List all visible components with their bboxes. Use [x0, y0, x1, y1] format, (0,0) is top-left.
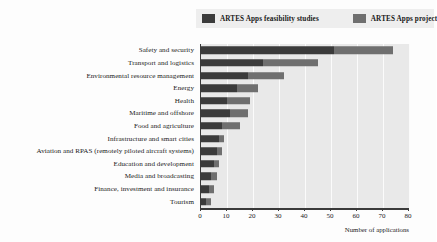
bar-segment-apps-project	[211, 173, 216, 181]
bar-segment-apps-project	[217, 147, 222, 155]
stacked-bar	[201, 122, 240, 130]
bar-segment-apps-project	[263, 59, 318, 67]
gridline	[409, 44, 410, 208]
category-label: Environmental resource management	[0, 69, 198, 82]
category-label: Transport and logistics	[0, 57, 198, 70]
legend-entry-feasibility-studies: ARTES Apps feasibility studies	[202, 9, 319, 28]
bar-segment-feasibility-studies	[201, 122, 222, 130]
bar-row	[201, 145, 409, 158]
legend-entry-apps-project: ARTES Apps project	[353, 9, 437, 28]
bar-segment-feasibility-studies	[201, 59, 263, 67]
legend-label-apps-project: ARTES Apps project	[371, 15, 437, 23]
bar-row	[201, 157, 409, 170]
bar-segment-apps-project	[219, 135, 224, 143]
x-tick-mark	[226, 208, 227, 211]
category-label: Education and development	[0, 157, 198, 170]
bar-row	[201, 183, 409, 196]
stacked-bar	[201, 110, 248, 118]
category-label: Energy	[0, 82, 198, 95]
stacked-bar	[201, 160, 219, 168]
bar-segment-feasibility-studies	[201, 47, 334, 55]
x-tick-label: 50	[327, 212, 334, 220]
bar-segment-feasibility-studies	[201, 160, 214, 168]
bar-segment-feasibility-studies	[201, 84, 237, 92]
legend-swatch-apps-project	[353, 14, 366, 23]
bar-row	[201, 69, 409, 82]
bar-segment-feasibility-studies	[201, 185, 209, 193]
bar-segment-feasibility-studies	[201, 72, 248, 80]
x-tick-mark	[304, 208, 305, 211]
bar-segment-apps-project	[209, 185, 214, 193]
bar-row	[201, 82, 409, 95]
category-label: Health	[0, 94, 198, 107]
bar-segment-apps-project	[214, 160, 219, 168]
bar-segment-apps-project	[222, 122, 240, 130]
category-label: Maritime and offshore	[0, 107, 198, 120]
bar-segment-apps-project	[206, 198, 211, 206]
stacked-bar	[201, 59, 318, 67]
category-label: Finance, investment and insurance	[0, 183, 198, 196]
category-label: Food and agriculture	[0, 120, 198, 133]
x-tick-label: 80	[405, 212, 412, 220]
bar-row	[201, 57, 409, 70]
x-tick-mark	[356, 208, 357, 211]
x-tick-label: 10	[223, 212, 230, 220]
category-label: Safety and security	[0, 44, 198, 57]
stacked-bar	[201, 97, 250, 105]
x-tick-mark	[252, 208, 253, 211]
stacked-bar	[201, 84, 258, 92]
x-tick-label: 0	[198, 212, 202, 220]
plot-area	[200, 44, 409, 208]
x-tick-mark	[278, 208, 279, 211]
stacked-bar	[201, 185, 214, 193]
x-tick-label: 20	[249, 212, 256, 220]
x-tick-mark	[382, 208, 383, 211]
legend-label-feasibility-studies: ARTES Apps feasibility studies	[220, 15, 319, 23]
bar-segment-feasibility-studies	[201, 147, 217, 155]
bar-segment-feasibility-studies	[201, 110, 230, 118]
x-axis-ticks: 01020304050607080	[200, 208, 408, 224]
bar-row	[201, 170, 409, 183]
stacked-bar	[201, 173, 217, 181]
category-label: Aviation and RPAS (remotely piloted airc…	[0, 145, 198, 158]
bar-row	[201, 132, 409, 145]
chart-legend: ARTES Apps feasibility studies ARTES App…	[196, 9, 434, 28]
bar-segment-feasibility-studies	[201, 135, 219, 143]
stacked-bar	[201, 47, 393, 55]
bar-segment-feasibility-studies	[201, 97, 227, 105]
bar-segment-apps-project	[230, 110, 248, 118]
bar-row	[201, 120, 409, 133]
bar-row	[201, 107, 409, 120]
bar-segment-feasibility-studies	[201, 173, 211, 181]
x-tick-label: 70	[379, 212, 386, 220]
x-tick-label: 60	[353, 212, 360, 220]
x-axis-title: Number of applications	[200, 226, 409, 233]
bar-segment-apps-project	[227, 97, 250, 105]
legend-swatch-feasibility-studies	[202, 14, 215, 23]
bar-segment-apps-project	[334, 47, 394, 55]
stacked-bar	[201, 72, 284, 80]
stacked-bar	[201, 147, 222, 155]
bar-row	[201, 94, 409, 107]
x-tick-label: 30	[275, 212, 282, 220]
stacked-bar	[201, 198, 211, 206]
bar-segment-apps-project	[237, 84, 258, 92]
bar-row	[201, 195, 409, 208]
category-label: Media and broadcasting	[0, 170, 198, 183]
category-label: Infrastructure and smart cities	[0, 132, 198, 145]
bar-row	[201, 44, 409, 57]
plot-wrapper: Safety and securityTransport and logisti…	[0, 44, 436, 214]
x-tick-label: 40	[301, 212, 308, 220]
category-label: Tourism	[0, 195, 198, 208]
bar-segment-apps-project	[248, 72, 284, 80]
x-tick-mark	[200, 208, 201, 211]
category-axis-labels: Safety and securityTransport and logisti…	[0, 44, 198, 208]
stacked-bar	[201, 135, 224, 143]
bar-rows	[201, 44, 409, 208]
x-tick-mark	[408, 208, 409, 211]
x-tick-mark	[330, 208, 331, 211]
